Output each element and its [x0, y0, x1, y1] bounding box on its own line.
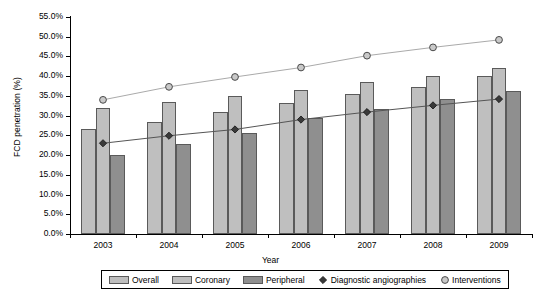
bar-coronary-2007 [360, 82, 375, 234]
diamond-marker-icon [318, 275, 329, 285]
x-tick-mark [400, 234, 401, 238]
x-tick-label: 2004 [160, 240, 179, 250]
x-tick-label: 2003 [94, 240, 113, 250]
x-tick-label: 2009 [490, 240, 509, 250]
x-axis-label: Year [0, 255, 541, 265]
legend-label: Interventions [452, 275, 501, 285]
bar-peripheral-2005 [242, 133, 257, 234]
y-tick-label: 50.0% [39, 31, 63, 41]
legend-swatch-icon [172, 276, 192, 284]
x-tick-mark [136, 234, 137, 238]
circle-marker-icon [439, 275, 450, 285]
chart-legend: OverallCoronaryPeripheralDiagnostic angi… [101, 270, 509, 289]
fcd-penetration-chart: FCD penetration (%) Year 0.0%5.0%10.0%15… [0, 0, 541, 295]
legend-swatch-icon [109, 276, 129, 284]
x-tick-mark [70, 234, 71, 238]
legend-item-2[interactable]: Peripheral [243, 275, 305, 285]
y-tick-label: 45.0% [39, 50, 63, 60]
bar-coronary-2005 [228, 96, 243, 234]
bar-overall-2006 [279, 103, 294, 234]
y-axis-label: FCD penetration (%) [12, 42, 22, 192]
x-tick-label: 2005 [226, 240, 245, 250]
x-tick-mark [334, 234, 335, 238]
x-tick-mark [532, 234, 533, 238]
legend-label: Coronary [195, 275, 230, 285]
bar-overall-2009 [477, 76, 492, 234]
bar-overall-2007 [345, 94, 360, 234]
bar-overall-2004 [147, 122, 162, 234]
plot-area [70, 17, 532, 234]
bar-coronary-2004 [162, 102, 177, 234]
legend-item-1[interactable]: Coronary [172, 275, 230, 285]
bar-overall-2005 [213, 112, 228, 234]
legend-swatch-icon [243, 276, 263, 284]
bar-coronary-2009 [492, 68, 507, 234]
x-axis-line [70, 234, 533, 235]
y-tick-label: 25.0% [39, 129, 63, 139]
y-tick-label: 0.0% [44, 228, 63, 238]
bar-coronary-2008 [426, 76, 441, 234]
x-tick-mark [202, 234, 203, 238]
bar-peripheral-2007 [374, 109, 389, 234]
bar-coronary-2003 [96, 108, 111, 234]
bar-overall-2003 [81, 129, 96, 234]
y-tick-label: 10.0% [39, 189, 63, 199]
legend-label: Diagnostic angiographies [331, 275, 426, 285]
x-tick-mark [268, 234, 269, 238]
y-tick-label: 55.0% [39, 11, 63, 21]
bar-peripheral-2008 [440, 99, 455, 234]
legend-label: Overall [132, 275, 159, 285]
bar-overall-2008 [411, 87, 426, 234]
bar-coronary-2006 [294, 90, 309, 234]
y-tick-label: 35.0% [39, 90, 63, 100]
y-tick-label: 15.0% [39, 169, 63, 179]
bar-peripheral-2009 [506, 91, 521, 234]
bar-peripheral-2004 [176, 144, 191, 234]
legend-item-0[interactable]: Overall [109, 275, 159, 285]
y-tick-label: 5.0% [44, 208, 63, 218]
legend-label: Peripheral [266, 275, 305, 285]
y-tick-label: 40.0% [39, 70, 63, 80]
y-tick-label: 20.0% [39, 149, 63, 159]
legend-item-4[interactable]: Interventions [439, 275, 501, 285]
y-tick-label: 30.0% [39, 110, 63, 120]
legend-item-3[interactable]: Diagnostic angiographies [318, 275, 426, 285]
x-tick-mark [466, 234, 467, 238]
x-tick-label: 2006 [292, 240, 311, 250]
x-tick-label: 2008 [424, 240, 443, 250]
x-tick-label: 2007 [358, 240, 377, 250]
bar-peripheral-2003 [110, 155, 125, 234]
bar-peripheral-2006 [308, 118, 323, 234]
